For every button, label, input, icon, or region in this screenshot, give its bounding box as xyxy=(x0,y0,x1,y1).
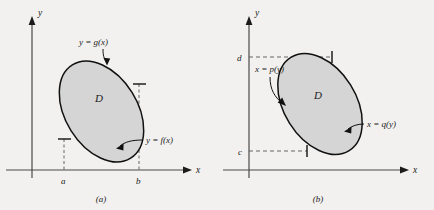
figure-container: y x D y = g(x) y = f(x) a b (a) xyxy=(0,0,434,210)
y-axis-arrowhead xyxy=(246,16,253,25)
panel-a-caption: (a) xyxy=(96,194,107,204)
panel-b-left-curve-label: x = p(y) xyxy=(254,64,284,74)
panel-b-x-axis xyxy=(223,167,409,174)
x-axis-arrowhead xyxy=(400,167,409,174)
panel-b-right-curve-label: x = q(y) xyxy=(366,119,396,129)
panel-a-upper-leader-arrowhead xyxy=(103,58,110,66)
panel-b-region xyxy=(260,38,379,169)
y-axis-arrowhead xyxy=(29,16,36,25)
panel-a-tick-label-b: b xyxy=(136,176,141,186)
panel-a-tick-label-a: a xyxy=(61,176,66,186)
panel-a-y-axis-label: y xyxy=(37,8,43,18)
panel-a-y-axis xyxy=(29,16,36,178)
panel-a-lower-curve-label: y = f(x) xyxy=(145,135,173,145)
panel-a-region xyxy=(42,46,161,177)
panel-b-region-label: D xyxy=(313,89,322,101)
panel-b-tick-label-c: c xyxy=(238,147,242,157)
x-axis-arrowhead xyxy=(183,167,192,174)
panel-b-tick-label-d: d xyxy=(237,53,242,63)
panel-b-diagram: y x D x = p(y) x = q(y) d c (b) xyxy=(217,0,434,210)
panel-a-x-axis-label: x xyxy=(195,165,201,175)
panel-b-x-axis-label: x xyxy=(412,165,418,175)
panel-a-diagram: y x D y = g(x) y = f(x) a b (a) xyxy=(0,0,217,210)
panel-b-y-axis-label: y xyxy=(254,8,260,18)
panel-b-caption: (b) xyxy=(313,194,324,204)
panel-a-region-label: D xyxy=(94,92,103,104)
panel-b-y-axis xyxy=(246,16,253,178)
panel-a-upper-curve-label: y = g(x) xyxy=(78,37,108,47)
panel-a-x-axis xyxy=(6,167,192,174)
